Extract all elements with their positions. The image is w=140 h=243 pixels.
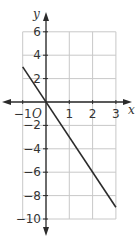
y-tick-label: 6 — [33, 25, 41, 39]
y-tick-label: 4 — [33, 48, 41, 62]
x-axis-label: x — [128, 103, 135, 117]
y-tick-label: −6 — [23, 165, 41, 179]
coordinate-plane: −1123642−2−4−6−8−10 x y O — [0, 0, 140, 243]
x-tick-label: 2 — [89, 107, 97, 121]
y-tick-label: −4 — [23, 142, 41, 156]
y-axis-up-arrow-icon — [43, 12, 49, 21]
y-tick-label: −8 — [23, 189, 41, 203]
x-axis-left-arrow-icon — [2, 99, 11, 105]
y-axis-down-arrow-icon — [43, 227, 49, 236]
x-tick-label: 3 — [112, 107, 120, 121]
y-axis-label: y — [32, 7, 40, 21]
x-tick-label: 1 — [65, 107, 73, 121]
origin-label: O — [32, 107, 42, 121]
y-tick-label: −10 — [16, 212, 41, 226]
